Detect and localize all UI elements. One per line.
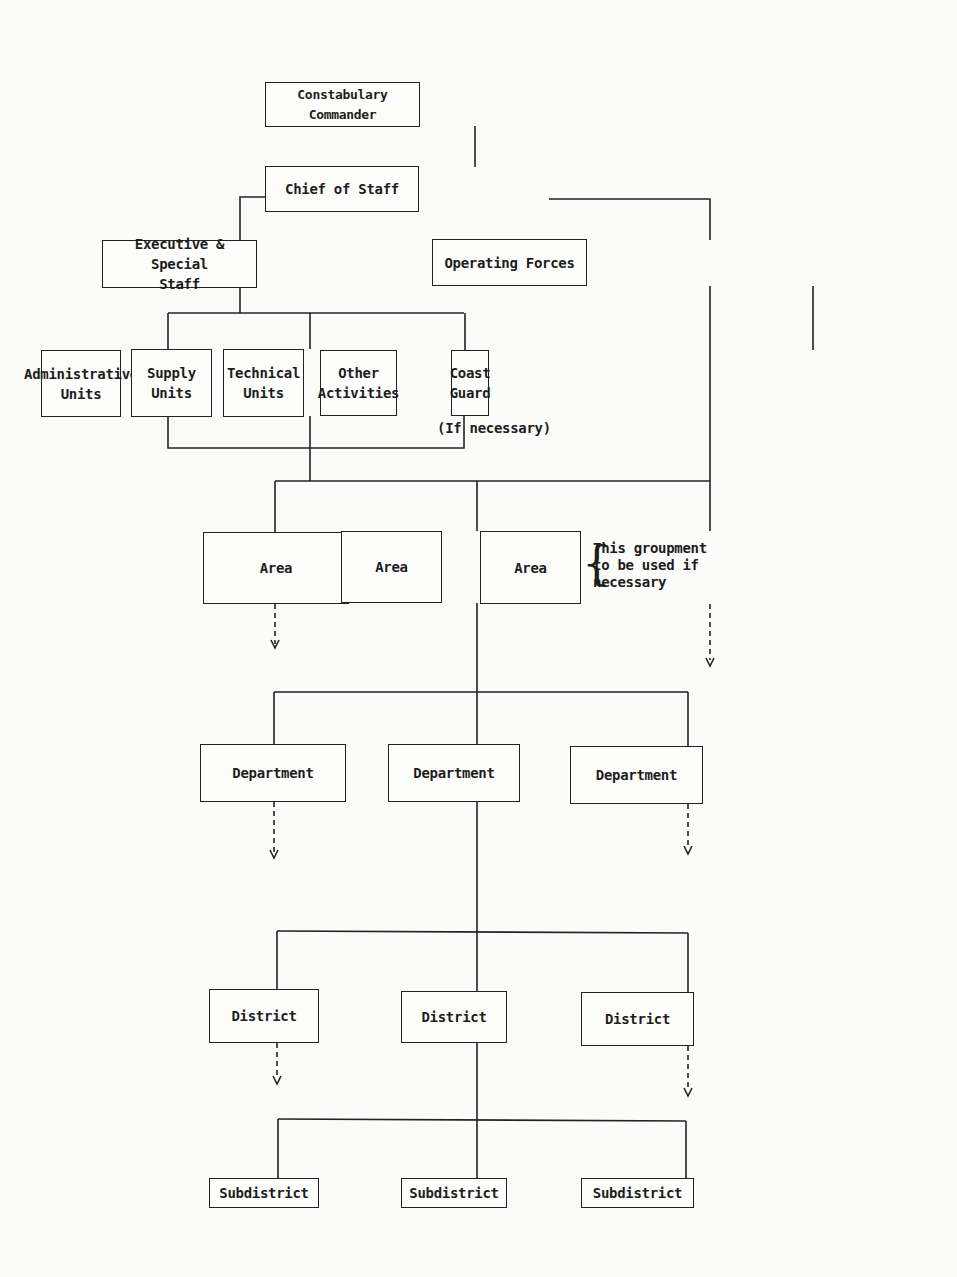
coast-guard-box: Coast Guard: [451, 350, 489, 416]
operating-forces-box: Operating Forces: [432, 239, 587, 286]
connector-lines: [0, 0, 957, 1277]
subdistrict-box-left: Subdistrict: [209, 1178, 319, 1208]
org-chart: Constabulary Commander Chief of Staff Ex…: [0, 0, 957, 1277]
subdistrict-box-right: Subdistrict: [581, 1178, 694, 1208]
chief-of-staff-box: Chief of Staff: [265, 166, 419, 212]
area-box-center: Area: [341, 531, 442, 603]
subdistrict-box-center: Subdistrict: [401, 1178, 507, 1208]
department-box-left: Department: [200, 744, 346, 802]
supply-units-box: Supply Units: [131, 349, 212, 417]
executive-special-staff-box: Executive & Special Staff: [102, 240, 257, 288]
district-box-center: District: [401, 991, 507, 1043]
administrative-units-box: Administrative Units: [41, 350, 121, 417]
groupment-note: This groupment to be used if necessary: [593, 540, 707, 591]
other-activities-box: Other Activities: [320, 350, 397, 416]
area-box-left: Area: [203, 532, 349, 604]
district-box-left: District: [209, 989, 319, 1043]
area-box-right: Area: [480, 531, 581, 604]
department-box-right: Department: [570, 746, 703, 804]
coast-guard-note: (If necessary): [437, 420, 551, 437]
district-box-right: District: [581, 992, 694, 1046]
department-box-center: Department: [388, 744, 520, 802]
technical-units-box: Technical Units: [223, 349, 304, 417]
commander-box: Constabulary Commander: [265, 82, 420, 127]
